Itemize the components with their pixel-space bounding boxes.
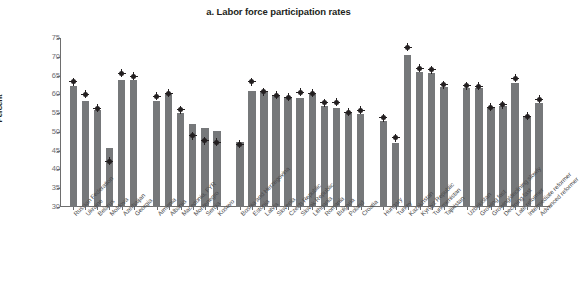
bar [118, 80, 125, 207]
data-point-marker [286, 95, 291, 100]
y-axis-ticks: 30354045505560657075 [36, 0, 60, 290]
bar [236, 142, 243, 207]
data-point-marker [214, 140, 219, 145]
data-point-marker [274, 93, 279, 98]
bar [153, 101, 160, 207]
bar [272, 95, 279, 207]
bar [416, 72, 423, 207]
data-point-marker [513, 76, 518, 81]
bar [284, 98, 291, 207]
data-point-marker [393, 135, 398, 140]
y-axis-title: Percent [0, 95, 4, 123]
data-point-marker [334, 100, 339, 105]
chart-title: a. Labor force participation rates [0, 6, 557, 17]
bar [70, 86, 77, 207]
bar [428, 73, 435, 207]
bar [345, 113, 352, 207]
data-point-marker [178, 107, 183, 112]
data-point-marker [537, 97, 542, 102]
bar [404, 55, 411, 207]
data-point-marker [358, 108, 363, 113]
data-point-marker [429, 67, 434, 72]
bar [380, 121, 387, 207]
bar [463, 88, 470, 207]
data-point-marker [71, 79, 76, 84]
data-point-marker [154, 94, 159, 99]
data-point-marker [107, 159, 112, 164]
data-point-marker [322, 100, 327, 105]
y-tick-mark [57, 207, 60, 208]
data-point-marker [476, 84, 481, 89]
bar [296, 98, 303, 207]
bar [357, 114, 364, 207]
data-point-marker [298, 90, 303, 95]
bar [333, 108, 340, 207]
bar [165, 94, 172, 207]
data-point-marker [525, 114, 530, 119]
data-point-marker [310, 91, 315, 96]
bar [475, 88, 482, 207]
bar [248, 91, 255, 207]
data-point-marker [417, 66, 422, 71]
data-point-marker [95, 106, 100, 111]
bar [177, 113, 184, 207]
data-point-marker [131, 74, 136, 79]
plot-area [60, 38, 550, 207]
data-point-marker [346, 110, 351, 115]
data-point-marker [83, 92, 88, 97]
data-point-marker [166, 91, 171, 96]
bar [130, 80, 137, 207]
bar [82, 101, 89, 207]
data-point-marker [405, 45, 410, 50]
data-point-marker [119, 71, 124, 76]
data-point-marker [249, 79, 254, 84]
